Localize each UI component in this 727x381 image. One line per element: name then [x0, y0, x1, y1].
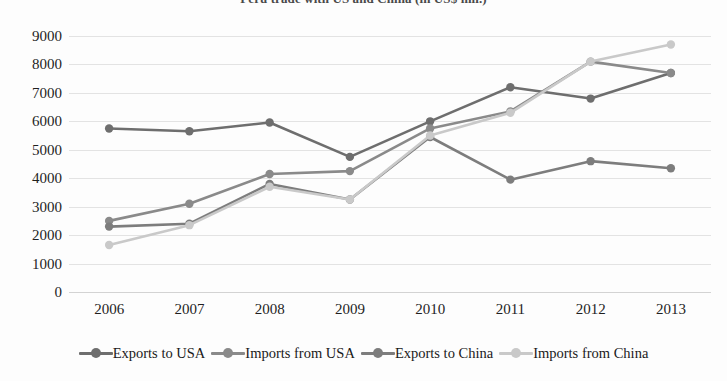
line-chart: Peru trade with US and China (in US$ mil…: [0, 0, 727, 381]
gridline-0: [69, 292, 711, 293]
legend-entry[interactable]: Exports to China: [361, 346, 493, 361]
y-tick-label: 6000: [32, 114, 62, 129]
x-tick-label: 2013: [656, 302, 686, 317]
data-point: [586, 57, 594, 65]
data-point: [265, 183, 273, 191]
data-point: [586, 94, 594, 102]
series-exports-to-china: [105, 133, 675, 231]
data-point: [265, 118, 273, 126]
data-point: [506, 175, 514, 183]
chart-title: Peru trade with US and China (in US$ mil…: [0, 0, 727, 7]
data-point: [346, 153, 354, 161]
legend-label: Exports to USA: [113, 346, 206, 361]
data-point: [185, 200, 193, 208]
series-line: [109, 73, 671, 157]
data-point: [105, 222, 113, 230]
data-point: [185, 127, 193, 135]
x-tick-label: 2007: [174, 302, 204, 317]
x-tick-label: 2006: [94, 302, 124, 317]
y-tick-label: 3000: [32, 199, 62, 214]
data-point: [586, 157, 594, 165]
legend-entry[interactable]: Imports from USA: [211, 346, 355, 361]
data-point: [506, 109, 514, 117]
series-line: [109, 45, 671, 246]
legend-label: Imports from China: [533, 346, 648, 361]
data-point: [346, 167, 354, 175]
y-tick-label: 0: [55, 285, 63, 300]
x-axis: 20062007200820092010201120122013: [69, 300, 711, 324]
x-tick-label: 2009: [335, 302, 365, 317]
y-tick-label: 2000: [32, 228, 62, 243]
data-point: [667, 164, 675, 172]
series-imports-from-china: [105, 40, 675, 249]
y-axis: 0100020003000400050006000700080009000: [0, 36, 62, 292]
chart-legend: Exports to USAImports from USAExports to…: [0, 340, 727, 366]
x-tick-label: 2012: [576, 302, 606, 317]
data-point: [265, 170, 273, 178]
x-tick-label: 2008: [255, 302, 285, 317]
y-tick-label: 1000: [32, 256, 62, 271]
legend-marker-icon: [79, 347, 113, 359]
y-tick-label: 4000: [32, 171, 62, 186]
y-tick-label: 8000: [32, 57, 62, 72]
y-tick-label: 5000: [32, 142, 62, 157]
legend-entry[interactable]: Exports to USA: [79, 346, 206, 361]
data-point: [667, 69, 675, 77]
series-layer: [69, 36, 711, 292]
data-point: [105, 241, 113, 249]
series-imports-from-usa: [105, 57, 675, 225]
series-exports-to-usa: [105, 69, 675, 161]
legend-marker-icon: [361, 347, 395, 359]
data-point: [506, 83, 514, 91]
x-tick-label: 2011: [496, 302, 525, 317]
x-tick-label: 2010: [415, 302, 445, 317]
series-line: [109, 62, 671, 221]
legend-label: Imports from USA: [245, 346, 355, 361]
data-point: [185, 221, 193, 229]
data-point: [426, 131, 434, 139]
legend-marker-icon: [499, 347, 533, 359]
data-point: [105, 124, 113, 132]
legend-label: Exports to China: [395, 346, 493, 361]
data-point: [667, 40, 675, 48]
legend-entry[interactable]: Imports from China: [499, 346, 648, 361]
y-tick-label: 9000: [32, 29, 62, 44]
y-tick-label: 7000: [32, 85, 62, 100]
legend-marker-icon: [211, 347, 245, 359]
plot-area: [69, 36, 711, 292]
data-point: [346, 195, 354, 203]
